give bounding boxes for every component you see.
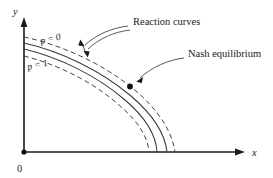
origin-dot [21,149,26,154]
reaction-curves-pointer-arrowhead-up [78,39,84,46]
y-axis-arrowhead [21,17,28,27]
x-axis-label: x [251,147,257,158]
reaction-curves-pointer-arrowhead-down [83,51,89,58]
nash-equilibrium-leader-arrowhead [136,77,143,83]
x-axis-arrowhead [235,149,245,156]
origin-label: 0 [17,163,22,174]
nash-equilibrium-point-marker [127,84,133,90]
nash-equilibrium-leader-group [127,58,184,89]
reaction-curves-leader-line-1 [85,26,128,45]
curve-label-p-equals-1: p = 1 [25,58,48,73]
reaction-curves-leader-group [78,26,130,58]
nash-equilibrium-label: Nash equilibrium [188,48,261,59]
reaction-curves-leader-line-2 [88,30,130,49]
y-axis-label: y [12,6,18,17]
nash-equilibrium-leader-line [140,58,184,78]
reaction-curves-figure: y x 0 Reaction curves Nash equilibrium p… [0,0,273,178]
reaction-curves-group [24,37,175,152]
reaction-curves-label: Reaction curves [133,16,200,27]
